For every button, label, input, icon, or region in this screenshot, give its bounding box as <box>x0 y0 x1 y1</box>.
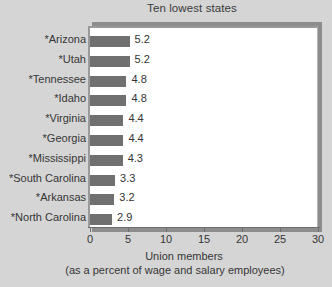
category-label: *Georgia <box>43 132 86 144</box>
category-label: *Mississippi <box>29 152 86 164</box>
bar-value-label: 5.2 <box>135 33 150 45</box>
bar <box>90 95 126 106</box>
bar-value-label: 4.8 <box>131 73 146 85</box>
x-axis-caption: Union members (as a percent of wage and … <box>0 249 332 277</box>
bar <box>90 76 126 87</box>
bar <box>90 36 130 47</box>
bar-row: 5.2 <box>90 32 318 52</box>
bar-value-label: 5.2 <box>135 53 150 65</box>
bar-chart: Ten lowest states *Arizona*Utah*Tennesse… <box>0 0 332 287</box>
category-label: *Arizona <box>44 33 86 45</box>
bar-row: 4.3 <box>90 151 318 171</box>
x-tick-label: 25 <box>265 233 295 245</box>
category-label: *Virginia <box>45 112 86 124</box>
bar-value-label: 4.4 <box>128 132 143 144</box>
x-tick-mark <box>90 228 91 232</box>
x-tick-mark <box>242 228 243 232</box>
category-label: *Utah <box>58 53 86 65</box>
bar <box>90 56 130 67</box>
bar-row: 5.2 <box>90 52 318 72</box>
bar <box>90 135 123 146</box>
category-label: *Arkansas <box>36 191 86 203</box>
chart-title: Ten lowest states <box>0 2 332 14</box>
plot-area: 5.25.24.84.84.44.44.33.33.22.9 <box>90 28 318 226</box>
x-tick-mark <box>318 228 319 232</box>
x-tick-label: 15 <box>189 233 219 245</box>
x-tick-mark <box>166 228 167 232</box>
bar-value-label: 3.2 <box>119 191 134 203</box>
bar-row: 3.3 <box>90 171 318 191</box>
bar <box>90 115 123 126</box>
x-tick-mark <box>204 228 205 232</box>
x-axis-caption-line1: Union members <box>0 249 332 263</box>
category-label: *Idaho <box>54 92 86 104</box>
x-tick-label: 0 <box>75 233 105 245</box>
bar-row: 3.2 <box>90 190 318 210</box>
bar-row: 4.8 <box>90 72 318 92</box>
category-label: *North Carolina <box>11 211 86 223</box>
x-tick-mark <box>280 228 281 232</box>
bar-row: 4.4 <box>90 111 318 131</box>
bar-value-label: 3.3 <box>120 172 135 184</box>
bar-value-label: 4.3 <box>128 152 143 164</box>
x-tick-label: 20 <box>227 233 257 245</box>
bar-value-label: 4.8 <box>131 92 146 104</box>
x-tick-mark <box>128 228 129 232</box>
bar-row: 4.8 <box>90 91 318 111</box>
x-axis-caption-line2: (as a percent of wage and salary employe… <box>0 263 332 277</box>
bar-value-label: 4.4 <box>128 112 143 124</box>
category-label: *Tennessee <box>29 73 87 85</box>
bar <box>90 155 123 166</box>
bar <box>90 214 112 225</box>
bar <box>90 175 115 186</box>
bar <box>90 194 114 205</box>
x-tick-label: 10 <box>151 233 181 245</box>
bar-value-label: 2.9 <box>117 211 132 223</box>
x-tick-label: 30 <box>303 233 332 245</box>
category-label: *South Carolina <box>9 172 86 184</box>
bar-row: 4.4 <box>90 131 318 151</box>
x-tick-label: 5 <box>113 233 143 245</box>
